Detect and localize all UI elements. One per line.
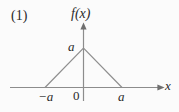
- math-figure: (1) f(x) x a 0 −a a: [0, 0, 179, 112]
- y-axis-label: f(x): [71, 7, 90, 21]
- origin-label: 0: [73, 89, 80, 102]
- x-tick-label-positive-a: a: [118, 90, 125, 103]
- item-number-label: (1): [11, 9, 27, 23]
- x-tick-label-negative-a: −a: [38, 90, 53, 103]
- x-axis-label: x: [165, 79, 171, 92]
- y-tick-label-a: a: [68, 40, 75, 53]
